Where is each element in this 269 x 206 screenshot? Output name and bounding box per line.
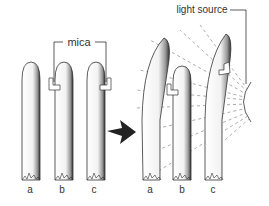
coleoptile-after-b <box>173 66 191 180</box>
label-before-b: b <box>59 184 65 195</box>
light-source-bracket <box>230 10 246 84</box>
coleoptile-before-b <box>55 62 73 180</box>
before-group: mica a b c <box>22 36 111 195</box>
label-after-b: b <box>179 184 185 195</box>
phototropism-diagram: mica a b c light source a <box>0 0 269 206</box>
label-after-c: c <box>211 184 216 195</box>
coleoptile-before-c <box>87 62 105 180</box>
light-source <box>244 82 252 122</box>
coleoptile-after-c <box>205 34 231 180</box>
mica-label: mica <box>67 36 91 48</box>
label-before-c: c <box>92 184 97 195</box>
label-before-a: a <box>27 184 33 195</box>
light-source-label: light source <box>176 4 228 15</box>
label-after-a: a <box>147 184 153 195</box>
coleoptile-after-a <box>142 38 169 180</box>
arrow-icon <box>107 120 136 144</box>
after-group: a b c <box>142 34 231 195</box>
coleoptile-before-a <box>22 62 40 180</box>
